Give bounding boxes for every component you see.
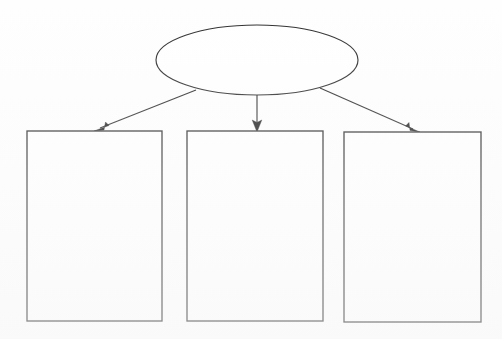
arrow-root-to-right-line	[320, 88, 413, 129]
diagram-canvas	[0, 0, 502, 339]
arrow-root-to-center[interactable]	[252, 95, 262, 132]
node-box-center[interactable]	[187, 131, 323, 321]
box-center-shape	[187, 131, 323, 321]
arrow-root-to-left-head	[94, 122, 109, 131]
box-left-shape	[27, 131, 162, 321]
root-ellipse-shape	[156, 25, 358, 95]
arrow-root-to-right[interactable]	[320, 88, 420, 132]
node-box-left[interactable]	[27, 131, 162, 321]
arrow-root-to-left-line	[100, 90, 196, 128]
diagram-surface	[0, 0, 502, 339]
node-box-right[interactable]	[344, 132, 481, 322]
box-right-shape	[344, 132, 481, 322]
arrow-root-to-left[interactable]	[94, 90, 196, 131]
node-root-ellipse[interactable]	[156, 25, 358, 95]
